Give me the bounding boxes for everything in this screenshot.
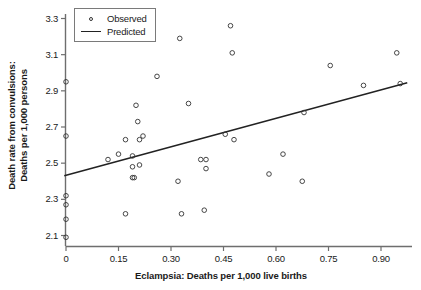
chart-legend: Observed Predicted	[74, 8, 156, 42]
data-point	[134, 103, 139, 108]
y-axis-tick-label: 2.1	[32, 230, 58, 241]
plot-canvas	[0, 0, 421, 290]
line-key-icon	[79, 31, 103, 32]
y-axis-tick-label: 3.3	[32, 13, 58, 24]
open-circle-key-icon	[79, 17, 103, 21]
data-point	[176, 179, 181, 184]
y-axis-tick-label: 2.9	[32, 85, 58, 96]
trend-line-segment	[64, 83, 407, 176]
x-axis-tick-label: 0	[49, 253, 83, 264]
data-point	[328, 63, 333, 68]
x-axis-tick-label: 0.30	[154, 253, 188, 264]
data-point	[135, 119, 140, 124]
data-point	[281, 152, 286, 157]
x-axis-tick-label: 0.45	[207, 253, 241, 264]
y-axis-tick-label: 2.5	[32, 157, 58, 168]
data-point	[130, 164, 135, 169]
data-point	[123, 137, 128, 142]
data-point	[106, 157, 111, 162]
data-point	[394, 51, 399, 56]
data-point	[202, 208, 207, 213]
data-point	[267, 172, 272, 177]
observed-data-points	[64, 23, 403, 239]
data-point	[204, 166, 209, 171]
x-axis-tick-label: 0.90	[364, 253, 398, 264]
data-point	[300, 179, 305, 184]
axes	[66, 14, 413, 247]
data-point	[198, 157, 203, 162]
data-point	[361, 83, 366, 88]
data-point	[141, 134, 146, 139]
data-point	[123, 212, 128, 217]
x-axis-tick-label: 0.75	[312, 253, 346, 264]
scatter-plot-figure: Death rate from convulsions: Deaths per …	[0, 0, 421, 290]
data-point	[230, 51, 235, 56]
data-point	[137, 163, 142, 168]
data-point	[155, 74, 160, 79]
data-point	[177, 36, 182, 41]
legend-label-predicted: Predicted	[103, 26, 145, 37]
data-point	[179, 212, 184, 217]
predicted-trend-line	[64, 83, 407, 176]
x-axis-tick-label: 0.60	[259, 253, 293, 264]
legend-label-observed: Observed	[103, 13, 147, 24]
y-axis-tick-label: 3.1	[32, 49, 58, 60]
y-axis-tick-label: 2.7	[32, 121, 58, 132]
data-point	[232, 137, 237, 142]
data-point	[228, 23, 233, 28]
data-point	[186, 101, 191, 106]
data-point	[116, 152, 121, 157]
legend-item-predicted: Predicted	[79, 25, 147, 38]
y-axis-tick-label: 2.3	[32, 193, 58, 204]
data-point	[204, 157, 209, 162]
x-axis-tick-label: 0.15	[102, 253, 136, 264]
legend-item-observed: Observed	[79, 12, 147, 25]
data-point	[137, 137, 142, 142]
